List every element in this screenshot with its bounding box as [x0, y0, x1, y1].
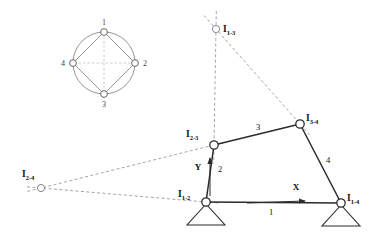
joint-label-subscript-I24: 2-4 [26, 174, 35, 181]
joint-node-I34 [296, 120, 304, 128]
joint-label-subscript-I23: 2-3 [190, 134, 199, 141]
joint-node-I23 [210, 141, 218, 149]
joint-node-I13 [212, 25, 219, 32]
kennedy-node-4 [70, 60, 77, 67]
joint-label-I23: I2-3 [186, 129, 199, 141]
joint-label-subscript-I34: 3-4 [310, 118, 319, 125]
joint-node-I24 [37, 184, 44, 191]
line-I24-to-I12 [27, 187, 220, 203]
kennedy-node-3 [101, 91, 108, 98]
joint-label-subscript-I14: 1-4 [351, 198, 360, 205]
linkage-diagram-svg: 1234 XY I1-2I1-4I2-3I3-4I1-3I2-41234 [0, 0, 384, 237]
x-axis-label: X [293, 182, 300, 192]
ground-support-I14 [322, 205, 360, 226]
joint-label-I34: I3-4 [306, 113, 319, 125]
kennedy-node-label-2: 2 [143, 59, 147, 68]
joint-label-I12: I1-2 [178, 189, 190, 201]
kennedy-node-label-1: 1 [102, 18, 106, 27]
joint-label-I13: I1-3 [223, 24, 236, 36]
joint-label-subscript-I13: 1-3 [227, 29, 236, 36]
link-number-label-link-2-crank: 2 [218, 164, 222, 174]
construction-lines-group [27, 11, 312, 203]
link-number-label-link-1-ground: 1 [269, 207, 273, 217]
y-axis-label: Y [195, 162, 202, 172]
joint-node-I12 [202, 198, 210, 206]
axes-group: XY [195, 157, 306, 204]
link-number-label-link-3-coupler: 3 [256, 122, 260, 132]
linkage-bars-group [206, 124, 341, 203]
labels-group: I1-2I1-4I2-3I3-4I1-3I2-41234 [22, 24, 360, 217]
kennedy-node-1 [101, 29, 108, 36]
diagram-canvas: 1234 XY I1-2I1-4I2-3I3-4I1-3I2-41234 [0, 0, 384, 237]
ground-support-I12 [187, 204, 225, 225]
line-I13-to-I34 [204, 16, 312, 138]
joint-node-I14 [337, 199, 345, 207]
kennedy-circle-group: 1234 [61, 18, 147, 109]
kennedy-node-label-4: 4 [61, 59, 65, 68]
link-number-label-link-4-rocker: 4 [326, 155, 331, 165]
kennedy-node-label-3: 3 [102, 100, 106, 109]
kennedy-node-2 [132, 60, 139, 67]
link-4-rocker [300, 124, 341, 203]
joint-label-I24: I2-4 [22, 169, 35, 181]
joint-label-I14: I1-4 [347, 193, 360, 205]
joint-label-subscript-I12: 1-2 [182, 194, 191, 201]
ground-supports-group [187, 204, 360, 226]
